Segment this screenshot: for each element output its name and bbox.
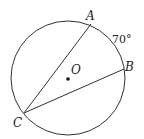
center-point	[66, 77, 70, 81]
center-label: O	[71, 63, 81, 77]
inscribed-angle-diagram: O A 70° B C	[0, 0, 144, 139]
point-label-a: A	[85, 9, 95, 23]
chord-ca	[24, 24, 91, 113]
point-label-c: C	[13, 116, 22, 130]
point-label-b: B	[124, 60, 134, 74]
arc-label-ab: 70°	[112, 33, 132, 46]
